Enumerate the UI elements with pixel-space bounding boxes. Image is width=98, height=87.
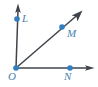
ray-OL xyxy=(15,4,21,69)
point-label-L: L xyxy=(22,13,28,24)
point-label-N: N xyxy=(64,71,71,82)
point-label-M: M xyxy=(67,28,76,39)
point-label-O: O xyxy=(8,71,16,82)
point-M-dot xyxy=(59,24,65,30)
point-L-dot xyxy=(14,16,20,22)
geometry-figure: L M N O xyxy=(0,0,98,87)
ray-ON xyxy=(16,65,95,71)
ray-OM-arrowhead xyxy=(72,11,83,22)
